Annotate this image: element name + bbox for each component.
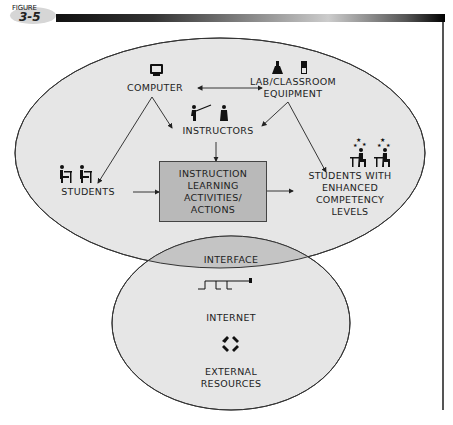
enhanced-label-line4: LEVELS	[290, 206, 410, 218]
svg-text:★: ★	[353, 142, 358, 148]
internet-label: INTERNET	[181, 312, 281, 324]
instruction-learning-box: INSTRUCTION LEARNING ACTIVITIES/ ACTIONS	[159, 161, 267, 222]
computer-label: COMPUTER	[120, 82, 190, 94]
svg-text:★: ★	[377, 142, 382, 148]
box-line-1: INSTRUCTION	[179, 168, 247, 180]
instructors-label: INSTRUCTORS	[163, 125, 273, 137]
lab-equipment-label-line1: LAB/CLASSROOM	[238, 76, 348, 88]
box-line-3: ACTIVITIES/	[179, 192, 247, 204]
svg-text:★: ★	[386, 142, 391, 148]
learning-environment-ellipse	[15, 38, 425, 268]
box-line-4: ACTIONS	[179, 204, 247, 216]
box-line-2: LEARNING	[179, 180, 247, 192]
equipment-icon	[301, 61, 307, 74]
interface-label: INTERFACE	[181, 254, 281, 266]
enhanced-label-line3: COMPETENCY	[290, 194, 410, 206]
students-label: STUDENTS	[48, 186, 128, 198]
svg-text:★: ★	[362, 141, 367, 147]
lab-equipment-label-line2: EQUIPMENT	[238, 88, 348, 100]
external-label-line1: EXTERNAL	[176, 366, 286, 378]
enhanced-label-line1: STUDENTS WITH	[290, 170, 410, 182]
enhanced-label-line2: ENHANCED	[290, 182, 410, 194]
external-label-line2: RESOURCES	[176, 378, 286, 390]
